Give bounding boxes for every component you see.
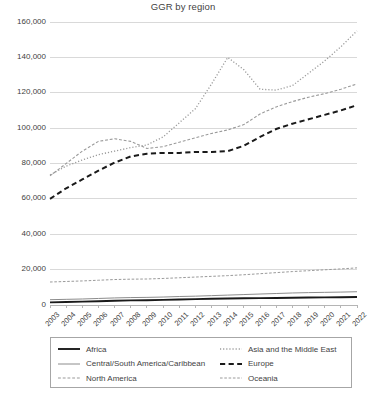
legend-item[interactable]: Central/South America/Caribbean	[57, 357, 217, 372]
legend-item[interactable]: North America	[57, 371, 217, 386]
legend-item[interactable]: Europe	[219, 357, 351, 372]
legend-column-right: Asia and the Middle EastEuropeOceania	[219, 342, 351, 386]
chart-legend: AfricaCentral/South America/CaribbeanNor…	[50, 337, 352, 388]
legend-item-label: Central/South America/Caribbean	[86, 359, 205, 368]
legend-line-swatch	[57, 359, 81, 369]
legend-item-label: Oceania	[248, 374, 278, 383]
legend-line-swatch	[219, 359, 243, 369]
legend-item[interactable]: Africa	[57, 342, 217, 357]
legend-item[interactable]: Asia and the Middle East	[219, 342, 351, 357]
legend-item-label: Europe	[248, 359, 274, 368]
legend-line-swatch	[57, 373, 81, 383]
legend-item-label: North America	[86, 374, 137, 383]
legend-line-swatch	[57, 344, 81, 354]
legend-line-swatch	[219, 344, 243, 354]
legend-item-label: Asia and the Middle East	[248, 345, 337, 354]
x-axis-labels: 2003200420052006200720082009201020112012…	[0, 0, 366, 340]
legend-item[interactable]: Oceania	[219, 371, 351, 386]
legend-line-swatch	[219, 373, 243, 383]
legend-column-left: AfricaCentral/South America/CaribbeanNor…	[57, 342, 217, 386]
legend-item-label: Africa	[86, 345, 106, 354]
